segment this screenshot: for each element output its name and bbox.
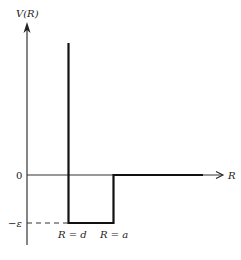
potential-diagram: V(R) R 0 −ε R = d R = a [0, 0, 241, 260]
epsilon-label: −ε [8, 218, 22, 229]
d-label: R = d [57, 229, 87, 240]
zero-label: 0 [16, 170, 22, 181]
x-axis-label: R [227, 170, 236, 181]
a-label: R = a [99, 229, 128, 240]
potential-curve [69, 43, 204, 223]
y-axis-label: V(R) [16, 8, 39, 19]
